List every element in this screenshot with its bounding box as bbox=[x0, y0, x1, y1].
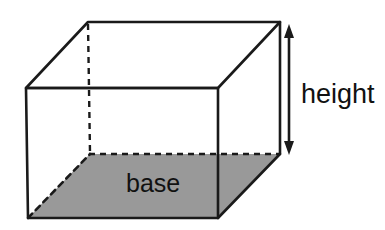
edge-top-face bbox=[26, 22, 280, 88]
base-label: base bbox=[126, 169, 180, 197]
rectangular-prism-diagram: height base bbox=[0, 0, 385, 230]
height-arrow-head-top bbox=[284, 24, 294, 38]
height-label: height bbox=[301, 79, 375, 109]
figure-canvas: height base bbox=[0, 0, 385, 230]
height-arrow-head-bottom bbox=[284, 141, 294, 155]
